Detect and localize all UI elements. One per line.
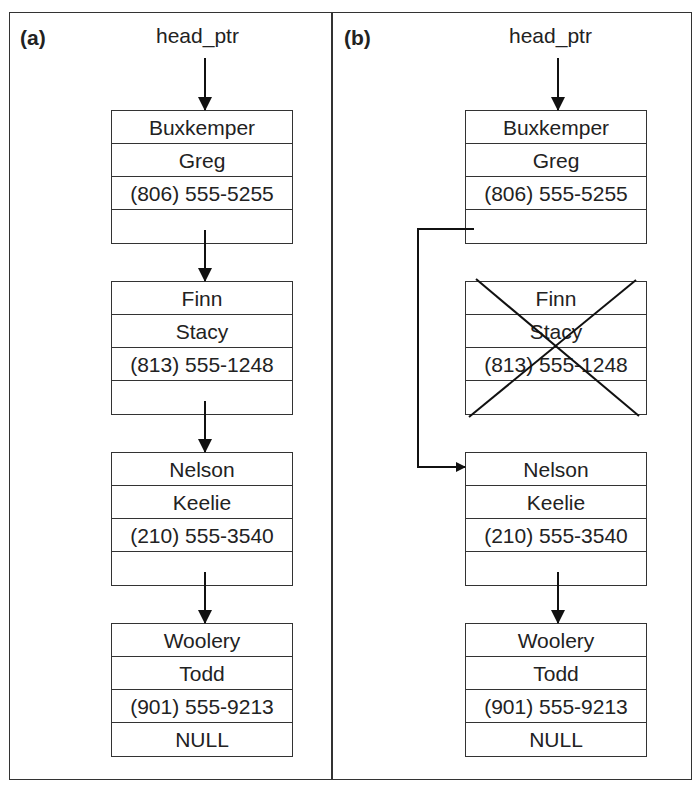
cross-line-1 xyxy=(476,279,639,416)
arrow-b-bypass xyxy=(418,229,474,467)
linked-list-diagram: (a) head_ptr (b) head_ptr Buxkemper Greg… xyxy=(0,0,698,792)
arrows-overlay xyxy=(0,0,698,792)
cross-line-2 xyxy=(469,280,636,417)
